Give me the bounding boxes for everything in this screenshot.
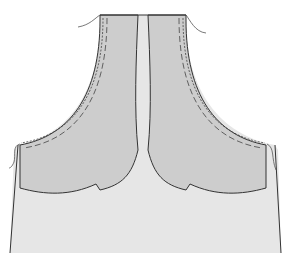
thread-tail-top-left [78,15,100,27]
facing-left [20,15,138,193]
thread-tail-top-right [186,15,206,33]
sewing-pattern-diagram [0,0,288,264]
